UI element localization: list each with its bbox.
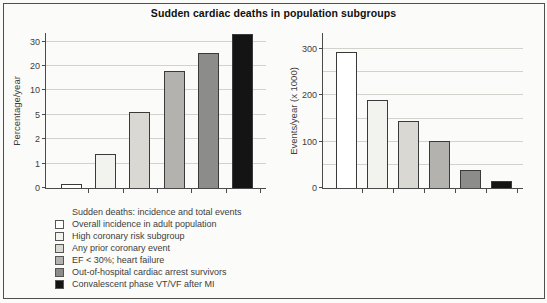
legend-item: Overall incidence in adult population xyxy=(55,218,242,230)
y-axis-tick-label: 30 xyxy=(30,37,40,46)
bar-6 xyxy=(232,34,253,188)
legend-item-label: Convalescent phase VT/VF after MI xyxy=(72,279,215,289)
legend-swatch xyxy=(55,232,64,241)
plot-area: 0100200300 xyxy=(322,33,523,189)
x-axis-tick xyxy=(362,189,363,193)
legend-swatch xyxy=(55,280,64,289)
legend: Sudden deaths: incidence and total event… xyxy=(55,206,242,290)
y-axis-tick-label: 1 xyxy=(35,159,40,168)
y-axis-tick-label: 200 xyxy=(302,91,317,100)
x-axis-tick xyxy=(88,189,89,193)
legend-item: High coronary risk subgroup xyxy=(55,230,242,242)
bar-4 xyxy=(429,141,450,188)
bar-1 xyxy=(61,184,82,188)
y-axis-tick-label: 10 xyxy=(30,86,40,95)
bar-3 xyxy=(129,112,150,188)
chart-events-per-year: Events/year (x 1000) 0100200300 xyxy=(322,33,523,189)
bar-2 xyxy=(367,100,388,188)
bar-5 xyxy=(460,170,481,188)
gridline xyxy=(323,48,523,49)
bar-5 xyxy=(198,53,219,188)
x-axis-tick xyxy=(123,189,124,193)
bar-3 xyxy=(398,121,419,188)
y-axis-tick xyxy=(319,48,323,49)
legend-item: Out-of-hospital cardiac arrest survivors xyxy=(55,266,242,278)
legend-swatch xyxy=(55,256,64,265)
legend-item-label: Any prior coronary event xyxy=(72,243,170,253)
y-axis-tick-label: 100 xyxy=(302,137,317,146)
bar-1 xyxy=(336,52,357,188)
x-axis-tick xyxy=(424,189,425,193)
x-axis-tick xyxy=(486,189,487,193)
y-axis-tick-label: 0 xyxy=(312,184,317,193)
y-axis-tick xyxy=(42,65,46,66)
bar-6 xyxy=(491,181,512,188)
y-axis-tick xyxy=(319,94,323,95)
y-axis-tick-label: 20 xyxy=(30,61,40,70)
y-axis-tick-label: 300 xyxy=(302,45,317,54)
y-axis-tick xyxy=(42,89,46,90)
legend-item-label: Overall incidence in adult population xyxy=(72,219,217,229)
x-axis-tick xyxy=(517,189,518,193)
legend-swatch xyxy=(55,244,64,253)
plot-area: 0125102030 xyxy=(45,33,266,189)
y-axis-tick xyxy=(319,141,323,142)
figure-title: Sudden cardiac deaths in population subg… xyxy=(0,7,547,19)
legend-item: Convalescent phase VT/VF after MI xyxy=(55,278,242,290)
chart-percentage-per-year: Percentage/year 0125102030 xyxy=(45,33,266,189)
y-axis-tick-label: 5 xyxy=(35,110,40,119)
y-axis-tick xyxy=(319,187,323,188)
x-axis-tick xyxy=(191,189,192,193)
y-axis-tick xyxy=(42,163,46,164)
legend-swatch xyxy=(55,268,64,277)
y-axis-tick xyxy=(42,138,46,139)
y-axis-tick-label: 0 xyxy=(35,184,40,193)
legend-swatch xyxy=(55,220,64,229)
y-axis-tick-label: 2 xyxy=(35,135,40,144)
x-axis-tick xyxy=(260,189,261,193)
figure: Sudden cardiac deaths in population subg… xyxy=(0,0,547,303)
y-axis-label: Percentage/year xyxy=(11,76,22,146)
x-axis-tick xyxy=(157,189,158,193)
x-axis-tick xyxy=(393,189,394,193)
x-axis-tick xyxy=(226,189,227,193)
bar-4 xyxy=(164,71,185,188)
y-axis-tick xyxy=(42,187,46,188)
x-axis-tick xyxy=(455,189,456,193)
y-axis-tick xyxy=(42,41,46,42)
legend-item-label: High coronary risk subgroup xyxy=(72,231,185,241)
legend-item: Any prior coronary event xyxy=(55,242,242,254)
bar-2 xyxy=(95,154,116,188)
legend-item-label: EF < 30%; heart failure xyxy=(72,255,164,265)
legend-item-label: Out-of-hospital cardiac arrest survivors xyxy=(72,267,227,277)
legend-title: Sudden deaths: incidence and total event… xyxy=(72,206,242,218)
y-axis-label: Events/year (x 1000) xyxy=(288,67,299,155)
y-axis-tick xyxy=(42,114,46,115)
legend-item: EF < 30%; heart failure xyxy=(55,254,242,266)
